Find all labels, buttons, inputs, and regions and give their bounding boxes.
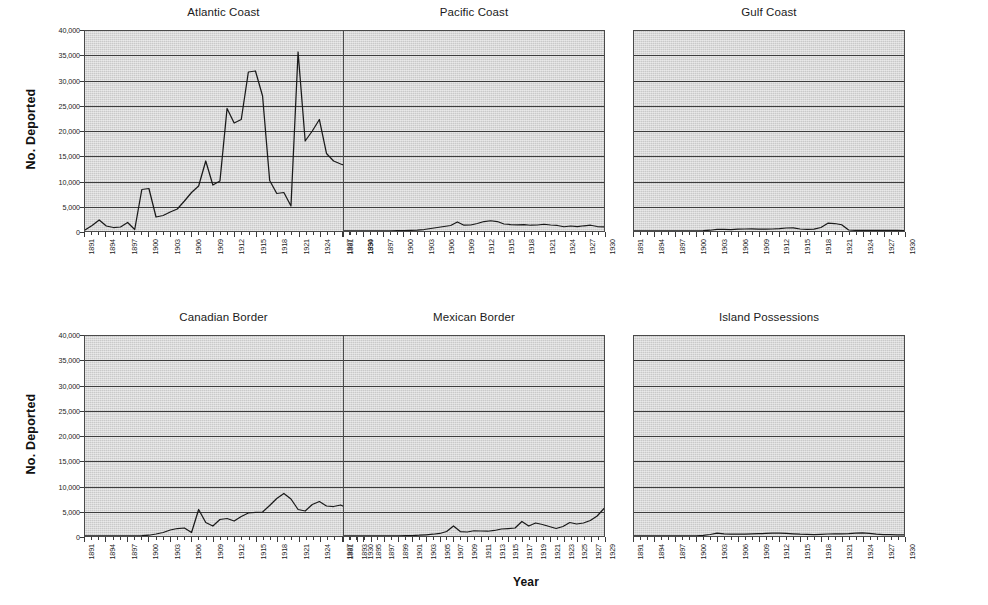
x-tick-mark [377,537,378,540]
x-tick-mark [842,537,843,542]
x-tick-mark [661,537,662,540]
x-tick-label: 1906 [194,544,203,560]
series-line-deported [344,221,604,231]
x-tick-mark [113,232,114,235]
x-tick-mark [779,537,780,542]
x-tick-mark [905,537,906,542]
x-tick-label: 1900 [699,239,708,255]
x-tick-mark [481,537,482,542]
series-canvas [634,31,904,231]
x-tick-mark [391,537,392,540]
x-tick-label: 1912 [237,544,246,560]
x-tick-mark [633,232,634,237]
x-tick-mark [177,537,178,540]
x-tick-mark [557,537,558,540]
series-canvas [344,336,604,536]
x-tick-label: 1909 [762,239,771,255]
x-axis-labels: 1891189418971900190319061909191219151918… [633,239,905,273]
x-tick-label: 1906 [194,239,203,255]
x-tick-mark [724,537,725,540]
x-tick-mark [148,537,149,542]
x-tick-label: 1893 [360,544,369,560]
y-tick-label: 25,000 [59,406,80,415]
x-tick-label: 1909 [467,239,476,255]
x-tick-mark [766,232,767,235]
x-tick-mark [227,537,228,540]
y-tick-label: 10,000 [59,177,80,186]
y-tick-label: 25,000 [59,101,80,110]
x-tick-mark [524,232,525,237]
x-tick-mark [807,232,808,235]
panel-title: Gulf Coast [633,6,905,18]
x-tick-mark [105,537,106,542]
x-tick-mark [450,232,451,235]
x-tick-label: 1895 [374,544,383,560]
x-tick-mark [241,537,242,540]
y-tick-label: 15,000 [59,152,80,161]
x-tick-mark [835,232,836,235]
x-tick-mark [543,537,544,540]
deportation-small-multiples-figure: Atlantic CoastNo. Deported05,00010,00015… [0,0,988,605]
x-tick-label: 1921 [845,239,854,255]
x-tick-mark [198,232,199,235]
x-tick-mark [412,537,413,542]
x-tick-mark [717,537,718,542]
x-tick-mark [571,232,572,235]
x-tick-label: 1921 [553,544,562,560]
x-tick-label: 1927 [887,544,896,560]
x-tick-mark [682,537,683,540]
x-tick-mark [495,537,496,542]
x-tick-mark [234,537,235,542]
x-tick-label: 1923 [567,544,576,560]
x-tick-mark [640,232,641,235]
chart-row-bottom: Canadian BorderNo. Deported05,00010,0001… [0,305,988,605]
x-tick-mark [364,537,365,540]
x-tick-mark [424,232,425,237]
x-tick-label: 1901 [415,544,424,560]
x-tick-label: 1891 [87,239,96,255]
x-tick-mark [551,232,552,235]
x-tick-mark [437,232,438,235]
x-tick-mark [484,232,485,237]
x-tick-mark [898,232,899,235]
x-tick-mark [759,537,760,542]
x-tick-mark [206,232,207,235]
x-tick-mark [291,232,292,235]
series-line-deported [634,223,904,231]
x-tick-label: 1894 [366,239,375,255]
x-tick-mark [752,537,753,540]
x-tick-mark [877,537,878,540]
x-tick-mark [148,232,149,237]
x-tick-label: 1913 [498,544,507,560]
x-tick-mark [565,232,566,237]
x-tick-mark [752,232,753,235]
x-tick-mark [814,232,815,235]
x-tick-label: 1897 [678,544,687,560]
x-tick-mark [256,232,257,237]
x-tick-mark [502,537,503,540]
x-tick-mark [350,537,351,540]
x-tick-mark [444,232,445,237]
plot-area [343,30,605,232]
x-tick-mark [863,537,864,542]
x-tick-label: 1900 [151,544,160,560]
x-tick-mark [870,537,871,540]
x-tick-mark [807,537,808,540]
x-tick-mark [870,232,871,235]
x-tick-label: 1900 [699,544,708,560]
x-tick-mark [433,537,434,540]
x-tick-label: 1903 [173,544,182,560]
x-axis-ticks [343,232,605,237]
x-tick-mark [891,537,892,540]
x-tick-mark [184,232,185,235]
x-tick-mark [856,232,857,235]
x-tick-mark [508,537,509,542]
x-tick-mark [419,537,420,540]
x-tick-mark [745,232,746,235]
x-tick-mark [471,232,472,235]
x-tick-label: 1915 [803,544,812,560]
x-tick-mark [249,232,250,235]
chart-panel-island-possessions: Island Possessions1891189418971900190319… [600,305,988,605]
x-tick-label: 1909 [216,544,225,560]
x-tick-mark [249,537,250,540]
